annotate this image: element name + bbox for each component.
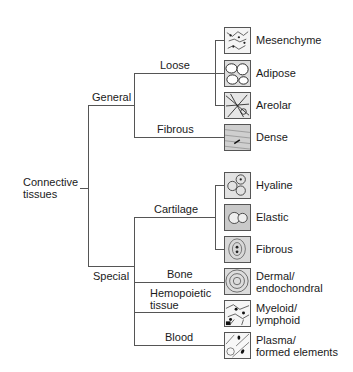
dense-icon	[224, 124, 251, 151]
blood-icon	[224, 332, 251, 359]
leaf-dermal: Dermal/ endochondral	[256, 270, 323, 294]
mesenchyme-icon	[224, 27, 251, 54]
cartilage-line	[134, 217, 216, 218]
loose-line	[134, 73, 216, 74]
special-line	[88, 266, 135, 267]
bone-line	[134, 282, 224, 283]
cartilage-bracket	[215, 185, 216, 250]
special-label: Special	[93, 270, 129, 282]
leaf-line	[215, 249, 224, 250]
hemopoietic-line	[134, 312, 224, 313]
hyaline-icon	[224, 172, 251, 199]
root-label: Connective tissues	[23, 176, 78, 200]
fibrous-label: Fibrous	[157, 123, 194, 135]
adipose-icon	[224, 60, 251, 87]
general-label: General	[92, 91, 131, 103]
bone-icon	[224, 268, 251, 295]
leaf-elastic: Elastic	[256, 211, 288, 223]
bone-label: Bone	[167, 268, 193, 280]
root-bracket	[88, 105, 89, 267]
leaf-line	[215, 105, 224, 106]
general-line	[88, 105, 135, 106]
general-bracket	[134, 73, 135, 138]
cartilage-label: Cartilage	[154, 203, 198, 215]
hemopoietic-label: Hemopoietic tissue	[150, 287, 211, 311]
leaf-areolar: Areolar	[256, 99, 291, 111]
leaf-line	[215, 40, 224, 41]
leaf-plasma: Plasma/ formed elements	[256, 334, 338, 358]
leaf-line	[215, 185, 224, 186]
leaf-dense: Dense	[256, 131, 288, 143]
loose-label: Loose	[160, 59, 190, 71]
leaf-fibrous-cartilage: Fibrous	[256, 243, 293, 255]
leaf-adipose: Adipose	[256, 67, 296, 79]
leaf-hyaline: Hyaline	[256, 179, 293, 191]
leaf-myeloid: Myeloid/ lymphoid	[256, 302, 300, 326]
blood-line	[134, 345, 224, 346]
blood-label: Blood	[165, 331, 193, 343]
fibrous-cartilage-icon	[224, 236, 251, 263]
elastic-icon	[224, 204, 251, 231]
leaf-mesenchyme: Mesenchyme	[256, 34, 321, 46]
areolar-icon	[224, 92, 251, 119]
fibrous-line	[134, 137, 224, 138]
myeloid-icon	[224, 300, 251, 327]
leaf-line	[215, 73, 224, 74]
